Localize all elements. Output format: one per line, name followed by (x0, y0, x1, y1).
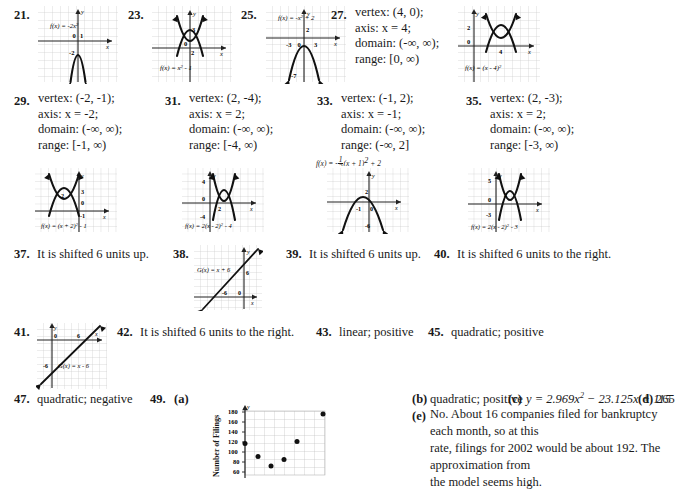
svg-text:x: x (394, 204, 398, 211)
svg-text:-6: -6 (43, 363, 48, 369)
exercise-number-45: 45. (428, 322, 444, 340)
svg-text:0: 0 (467, 38, 470, 45)
exercise-number-42: 42. (117, 322, 133, 340)
exercise-number-37: 37. (14, 244, 30, 262)
graph-41-function-label: G(x) = x - 6 (58, 362, 90, 370)
exercise-number-25: 25. (241, 5, 257, 23)
exercise-31-answer: vertex: (2, -4); axis: x = 2; domain: (-… (189, 91, 309, 153)
graph-31-function-label: f(x) = 2(x - 2)2 - 4 (185, 222, 232, 230)
exercise-number-33: 33. (317, 91, 333, 109)
graph-21: 0 1 -2 y x f(x) = -2x2 (36, 4, 120, 84)
svg-text:-4: -4 (200, 213, 205, 220)
exercise-27-line-2: axis: x = 4; (355, 21, 465, 37)
exercise-49-part-a-label: (a) (174, 389, 189, 407)
svg-text:2: 2 (467, 24, 470, 31)
exercise-49-part-e-line-3: the model seems high. (430, 474, 680, 491)
svg-text:0: 0 (238, 290, 241, 296)
svg-text:-3: -3 (286, 41, 292, 48)
exercise-number-39: 39. (286, 244, 302, 262)
exercise-35-answer: vertex: (2, -3); axis: x = 2; domain: (-… (490, 91, 615, 153)
exercise-29-line-4: range: [-1, ∞) (38, 138, 158, 154)
exercise-33-answer: vertex: (-1, 2); axis: x = -1; domain: (… (341, 91, 461, 153)
svg-text:x: x (527, 48, 531, 55)
svg-text:-1: -1 (356, 205, 361, 212)
svg-text:0: 0 (54, 333, 57, 339)
svg-text:x: x (333, 40, 337, 47)
exercise-31-line-4: range: [-4, ∞) (189, 138, 309, 154)
svg-text:y: y (80, 172, 84, 179)
scatter-point (295, 439, 300, 444)
exercise-37-answer: It is shifted 6 units up. (37, 244, 149, 262)
exercise-number-41: 41. (14, 322, 30, 340)
exercise-49-part-d-text: 265 (656, 389, 675, 407)
graph-35-function-label: f(x) = 2(x - 2)2 - 3 (471, 223, 518, 231)
exercise-35-line-1: vertex: (2, -3); (490, 91, 615, 107)
exercise-27-line-4: range: [0, ∞) (355, 52, 465, 68)
svg-text:2: 2 (306, 26, 309, 33)
svg-text:2: 2 (218, 205, 221, 212)
exercise-number-49: 49. (150, 389, 166, 407)
exercise-29-line-2: axis: x = -2; (38, 107, 158, 123)
exercise-number-38: 38. (173, 244, 189, 262)
scatter-ytick-160: 160 (228, 418, 238, 425)
scatter-point (269, 464, 274, 469)
svg-text:6: 6 (77, 333, 80, 339)
svg-text:x: x (94, 331, 98, 337)
exercise-49-part-e-line-1: No. About 16 companies filed for bankrup… (430, 406, 680, 440)
exercise-39-answer: It is shifted 6 units up. (309, 244, 421, 262)
scatter-ytick-180: 180 (228, 408, 238, 415)
exercise-number-47: 47. (14, 389, 30, 407)
graph-27: 0 2 4 y x f(x) = (x - 4)2 (456, 4, 542, 84)
svg-text:0: 0 (184, 40, 187, 47)
exercise-number-21: 21. (14, 5, 30, 23)
exercise-49-part-e-text: No. About 16 companies filed for bankrup… (430, 406, 680, 491)
svg-text:0: 0 (81, 199, 84, 206)
svg-text:2: 2 (504, 191, 507, 198)
svg-text:-6: -6 (222, 290, 227, 296)
svg-text:-7: -7 (291, 72, 297, 79)
exercise-33-line-4: range: (-∞, 2] (341, 138, 461, 154)
exercise-number-31: 31. (165, 91, 181, 109)
svg-text:y: y (192, 10, 196, 17)
exercise-number-23: 23. (128, 5, 144, 23)
graph-38-function-label: G(x) = x + 6 (197, 266, 231, 274)
exercise-49-part-d-label: (d) (638, 389, 653, 407)
exercise-27-answer: vertex: (4, 0); axis: x = 4; domain: (-∞… (355, 5, 465, 67)
svg-text:-3: -3 (486, 211, 491, 218)
exercise-31-line-2: axis: x = 2; (189, 107, 309, 123)
svg-text:0: 0 (202, 195, 205, 202)
graph-35: 5 0 2 -3 y x f(x) = 2(x - 2)2 - 3 (466, 166, 552, 234)
svg-text:y: y (53, 325, 57, 331)
svg-text:0: 0 (488, 196, 491, 203)
svg-text:y: y (371, 172, 375, 179)
svg-text:x: x (249, 205, 253, 212)
svg-text:x: x (250, 300, 254, 306)
exercise-31-line-3: domain: (-∞, ∞); (189, 122, 309, 138)
exercise-33-line-1: vertex: (-1, 2); (341, 91, 461, 107)
scatter-plot-49a: y 180 160 140 120 100 80 60 (204, 403, 334, 478)
graph-23: 0 2 3 y x f(x) = x2 - 1 (150, 4, 234, 84)
exercise-49-part-c-label: (c) (508, 389, 522, 407)
svg-text:-2: -2 (59, 192, 64, 199)
exercise-31-line-1: vertex: (2, -4); (189, 91, 309, 107)
graph-41: 0 6 -6 y x G(x) = x - 6 (36, 322, 108, 390)
exercise-29-line-3: domain: (-∞, ∞); (38, 122, 158, 138)
exercise-29-line-1: vertex: (-2, -1); (38, 91, 158, 107)
graph-29: -2 3 0 -1 y x f(x) = (x + 2)2 - 1 (33, 166, 119, 234)
exercise-35-line-4: range: [-3, ∞) (490, 138, 615, 154)
svg-text:x: x (102, 213, 106, 220)
scatter-ytick-120: 120 (228, 438, 238, 445)
svg-text:x: x (219, 50, 223, 57)
exercise-number-43: 43. (316, 322, 332, 340)
exercise-33-line-3: domain: (-∞, ∞); (341, 122, 461, 138)
svg-text:6: 6 (246, 270, 249, 276)
svg-text:y: y (80, 8, 84, 15)
svg-text:1: 1 (80, 32, 83, 39)
svg-text:5: 5 (488, 177, 491, 184)
svg-text:x: x (535, 206, 539, 213)
graph-31: 4 0 2 -4 y x f(x) = 2(x - 2)2 - 4 (180, 166, 266, 234)
svg-text:-2: -2 (69, 49, 74, 56)
exercise-number-40: 40. (434, 244, 450, 262)
graph-25-function-label: f(x) = -x2 + 2 (278, 14, 315, 22)
exercise-40-answer: It is shifted 6 units to the right. (457, 244, 611, 262)
